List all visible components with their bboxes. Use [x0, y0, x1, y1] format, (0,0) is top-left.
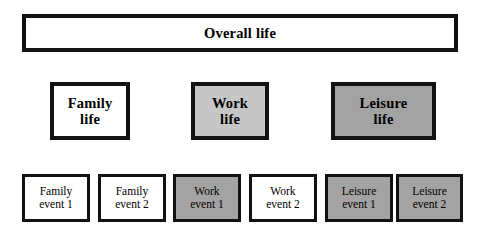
overall-life-box: Overall life: [22, 14, 458, 52]
work-event-2-label-line-1: Work: [266, 185, 300, 198]
family-event-1-label-line-1: Family: [39, 185, 73, 198]
family-event-2-label-line-1: Family: [115, 185, 149, 198]
family-life-label-line-2: life: [68, 111, 113, 127]
leisure-event-1-label: Leisure event 1: [342, 185, 376, 211]
leisure-life-label-line-2: life: [360, 111, 408, 127]
work-event-1-label-line-1: Work: [190, 185, 224, 198]
leisure-event-2-label: Leisure event 2: [412, 185, 446, 211]
family-life-box: Family life: [50, 82, 130, 140]
leisure-life-label-line-1: Leisure: [360, 95, 408, 111]
leisure-event-1-label-line-2: event 1: [342, 198, 376, 211]
family-event-1-box: Family event 1: [22, 174, 90, 222]
work-life-box: Work life: [191, 82, 269, 140]
work-event-2-label: Work event 2: [266, 185, 300, 211]
leisure-event-2-label-line-1: Leisure: [412, 185, 446, 198]
family-event-2-label-line-2: event 2: [115, 198, 149, 211]
leisure-life-label: Leisure life: [360, 95, 408, 127]
leisure-event-1-box: Leisure event 1: [325, 174, 393, 222]
work-event-1-label: Work event 1: [190, 185, 224, 211]
family-event-2-box: Family event 2: [98, 174, 166, 222]
family-life-label: Family life: [68, 95, 113, 127]
family-event-1-label-line-2: event 1: [39, 198, 73, 211]
family-event-1-label: Family event 1: [39, 185, 73, 211]
work-life-label-line-1: Work: [212, 95, 248, 111]
work-event-2-box: Work event 2: [249, 174, 317, 222]
leisure-event-1-label-line-1: Leisure: [342, 185, 376, 198]
family-life-label-line-1: Family: [68, 95, 113, 111]
diagram-canvas: Overall life Family life Work life Leisu…: [0, 0, 485, 244]
work-event-2-label-line-2: event 2: [266, 198, 300, 211]
overall-life-label: Overall life: [204, 25, 276, 41]
leisure-event-2-box: Leisure event 2: [396, 174, 463, 222]
work-event-1-box: Work event 1: [173, 174, 241, 222]
leisure-event-2-label-line-2: event 2: [412, 198, 446, 211]
work-life-label-line-2: life: [212, 111, 248, 127]
work-life-label: Work life: [212, 95, 248, 127]
leisure-life-box: Leisure life: [331, 82, 436, 140]
work-event-1-label-line-2: event 1: [190, 198, 224, 211]
family-event-2-label: Family event 2: [115, 185, 149, 211]
